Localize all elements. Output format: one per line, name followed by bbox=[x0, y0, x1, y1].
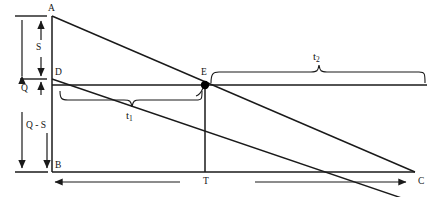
vertex-label-B: B bbox=[55, 161, 61, 171]
diagram-canvas bbox=[0, 0, 431, 197]
measure-label-S: S bbox=[36, 43, 41, 53]
brace-t2 bbox=[211, 65, 425, 83]
brace-label-t1-sub: 1 bbox=[129, 114, 133, 123]
brace-label-t1: t1 bbox=[126, 110, 133, 121]
measure-label-Q-minus-S: Q - S bbox=[26, 121, 46, 131]
vertex-label-E: E bbox=[201, 68, 207, 78]
vertex-label-D: D bbox=[55, 68, 62, 78]
brace-label-t2-sub: 2 bbox=[316, 55, 320, 64]
brace-t1 bbox=[60, 91, 202, 107]
figure-lines bbox=[52, 16, 431, 197]
brace-t2-path bbox=[211, 65, 425, 83]
geometry-diagram: A D B E C T S Q Q - S t1 t2 bbox=[0, 0, 431, 197]
point-E-marker bbox=[201, 81, 209, 89]
vertex-label-A: A bbox=[48, 4, 55, 14]
measurement-ticks bbox=[15, 16, 48, 172]
brace-t1-path bbox=[60, 91, 202, 107]
brace-label-t2: t2 bbox=[313, 51, 320, 62]
axis-label-T: T bbox=[203, 177, 209, 187]
vertex-label-C: C bbox=[418, 177, 424, 187]
measure-label-Q: Q bbox=[21, 84, 28, 94]
segment-AC bbox=[52, 16, 415, 172]
